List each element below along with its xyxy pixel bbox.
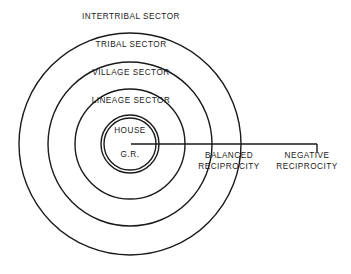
- axis-label-balanced-line1: BALANCED: [198, 150, 259, 161]
- core-label-house: HOUSE: [114, 125, 146, 136]
- ring-label-tribal: TRIBAL SECTOR: [95, 39, 166, 50]
- ring-label-lineage: LINEAGE SECTOR: [92, 95, 171, 106]
- ring-label-village: VILLAGE SECTOR: [92, 67, 169, 78]
- diagram-canvas: [0, 0, 351, 274]
- core-label-gr: G.R.: [121, 149, 140, 160]
- axis-label-balanced-reciprocity: BALANCED RECIPROCITY: [198, 150, 259, 172]
- ring-label-intertribal: INTERTRIBAL SECTOR: [82, 11, 180, 22]
- reciprocity-diagram: INTERTRIBAL SECTOR TRIBAL SECTOR VILLAGE…: [0, 0, 351, 274]
- axis-label-balanced-line2: RECIPROCITY: [198, 161, 259, 172]
- axis-label-negative-line2: RECIPROCITY: [276, 161, 337, 172]
- axis-label-negative-reciprocity: NEGATIVE RECIPROCITY: [276, 150, 337, 172]
- axis-label-negative-line1: NEGATIVE: [276, 150, 337, 161]
